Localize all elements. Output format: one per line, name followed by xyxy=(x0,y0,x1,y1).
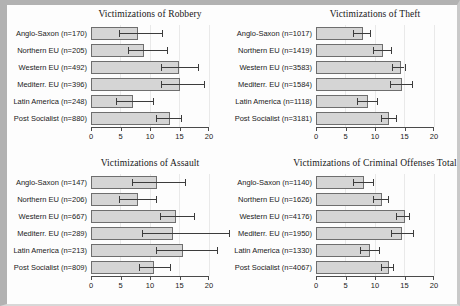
category-row: Post Socialist (n=880) xyxy=(7,110,232,127)
row-plot xyxy=(316,191,434,208)
axis-tick-label: 15 xyxy=(175,281,183,290)
axis-tick-label: 0 xyxy=(89,132,93,141)
x-axis: 05101520 xyxy=(91,127,209,142)
axis-tick xyxy=(91,277,92,280)
axis-tick-label: 5 xyxy=(118,132,122,141)
axis-tick-label: 0 xyxy=(89,281,93,290)
error-bar xyxy=(353,182,373,183)
row-plot xyxy=(91,25,209,42)
error-bar-cap-high xyxy=(388,196,389,203)
row-plot xyxy=(316,76,434,93)
error-bar-cap-high xyxy=(370,30,371,37)
category-row: Latin America (n=1118) xyxy=(232,93,457,110)
axis-tick-label: 5 xyxy=(343,132,347,141)
category-label: Latin America (n=1118) xyxy=(232,97,312,106)
error-bar-cap-high xyxy=(170,264,171,271)
row-plot xyxy=(316,225,434,242)
panel-title-wrap: Victimizations of Criminal Offenses Tota… xyxy=(316,158,434,168)
row-plot xyxy=(91,42,209,59)
axis-tick-label: 10 xyxy=(371,132,379,141)
error-bar-cap-high xyxy=(413,230,414,237)
error-bar-cap-high xyxy=(393,264,394,271)
category-label: Northern EU (n=1419) xyxy=(232,46,312,55)
panel-robbery: Victimizations of Robbery Anglo-Saxon (n… xyxy=(7,5,232,154)
category-row: Western EU (n=667) xyxy=(7,208,232,225)
error-bar-cap-low xyxy=(353,30,354,37)
x-axis: 05101520 xyxy=(316,127,434,142)
axis-tick xyxy=(433,277,434,280)
chart-title: Victimizations of Theft xyxy=(330,9,421,19)
error-bar-cap-high xyxy=(153,98,154,105)
error-bar-cap-high xyxy=(377,98,378,105)
row-plot xyxy=(91,59,209,76)
category-row: Anglo-Saxon (n=1140) xyxy=(232,174,457,191)
error-bar-cap-high xyxy=(185,179,186,186)
category-label: Western EU (n=4176) xyxy=(232,212,312,221)
axis-tick xyxy=(150,277,151,280)
plot-area: Anglo-Saxon (n=1140)Northern EU (n=1626)… xyxy=(232,174,457,276)
axis-tick-label: 10 xyxy=(146,281,154,290)
plot-area: Anglo-Saxon (n=147)Northern EU (n=206)We… xyxy=(7,174,232,276)
error-bar-cap-low xyxy=(142,230,143,237)
error-bar-cap-high xyxy=(198,64,199,71)
error-bar xyxy=(373,199,388,200)
row-plot xyxy=(91,259,209,276)
error-bar-cap-low xyxy=(156,247,157,254)
error-bar-cap-high xyxy=(229,230,230,237)
axis-tick-label: 5 xyxy=(118,281,122,290)
category-row: Latin America (n=248) xyxy=(7,93,232,110)
axis-tick xyxy=(375,277,376,280)
error-bar-cap-low xyxy=(156,115,157,122)
category-label: Post Socialist (n=3181) xyxy=(232,114,312,123)
bar xyxy=(316,261,389,274)
row-plot xyxy=(316,208,434,225)
error-bar-cap-high xyxy=(181,115,182,122)
axis-tick-label: 15 xyxy=(175,132,183,141)
error-bar-cap-high xyxy=(167,47,168,54)
error-bar-cap-low xyxy=(357,98,358,105)
category-row: Post Socialist (n=4067) xyxy=(232,259,457,276)
category-label: Post Socialist (n=4067) xyxy=(232,263,312,272)
victimization-figure: Victimizations of Robbery Anglo-Saxon (n… xyxy=(0,0,460,306)
chart-title: Victimizations of Criminal Offenses Tota… xyxy=(293,158,456,168)
error-bar xyxy=(119,33,162,34)
error-bar-cap-low xyxy=(381,115,382,122)
x-axis: 05101520 xyxy=(91,276,209,291)
error-bar-cap-low xyxy=(396,213,397,220)
panel-title-wrap: Victimizations of Theft xyxy=(316,9,434,19)
category-label: Latin America (n=1330) xyxy=(232,246,312,255)
axis-tick xyxy=(316,277,317,280)
error-bar-cap-high xyxy=(162,30,163,37)
error-bar-cap-low xyxy=(160,213,161,220)
panel-criminal-offenses-total: Victimizations of Criminal Offenses Tota… xyxy=(232,154,457,304)
error-bar xyxy=(357,101,378,102)
category-label: Anglo-Saxon (n=1017) xyxy=(232,29,312,38)
bar xyxy=(316,61,401,74)
error-bar xyxy=(390,84,412,85)
category-row: Mediterr. EU (n=1950) xyxy=(232,225,457,242)
row-plot xyxy=(91,225,209,242)
error-bar-cap-low xyxy=(391,230,392,237)
category-row: Post Socialist (n=809) xyxy=(7,259,232,276)
axis-tick xyxy=(121,128,122,131)
axis-tick-label: 15 xyxy=(400,132,408,141)
axis-tick xyxy=(433,128,434,131)
category-row: Northern EU (n=1419) xyxy=(232,42,457,59)
axis-tick-label: 20 xyxy=(205,132,213,141)
error-bar xyxy=(360,250,379,251)
axis-tick-label: 20 xyxy=(430,281,438,290)
category-row: Anglo-Saxon (n=1017) xyxy=(232,25,457,42)
error-bar-cap-high xyxy=(405,64,406,71)
plot-area: Anglo-Saxon (n=1017)Northern EU (n=1419)… xyxy=(232,25,457,127)
row-plot xyxy=(316,174,434,191)
row-plot xyxy=(316,42,434,59)
error-bar xyxy=(160,216,194,217)
panel-theft: Victimizations of Theft Anglo-Saxon (n=1… xyxy=(232,5,457,154)
error-bar xyxy=(119,199,156,200)
category-row: Mediterr. EU (n=1584) xyxy=(232,76,457,93)
category-row: Western EU (n=492) xyxy=(7,59,232,76)
panel-title-wrap: Victimizations of Robbery xyxy=(91,9,209,19)
row-plot xyxy=(316,110,434,127)
category-row: Mediterr. EU (n=396) xyxy=(7,76,232,93)
error-bar-cap-high xyxy=(409,213,410,220)
